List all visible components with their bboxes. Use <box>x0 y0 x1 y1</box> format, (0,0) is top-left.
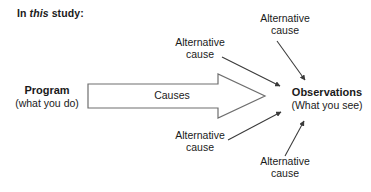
alt-cause-line2: cause <box>271 24 299 36</box>
alt-cause-line1: Alternative <box>260 12 310 24</box>
arrow-alt-cause-bottom-right <box>285 121 304 156</box>
alt-cause-line2: cause <box>186 48 214 60</box>
alt-cause-label-top-right: Alternative cause <box>248 12 322 37</box>
heading-prefix: In <box>17 7 30 19</box>
heading-label: In this study: <box>17 7 84 19</box>
alt-cause-label-bottom-right: Alternative cause <box>248 155 322 180</box>
causal-diagram: In this study: Program (what you do) Cau… <box>0 0 371 192</box>
alt-cause-line1: Alternative <box>260 155 310 167</box>
observations-node: Observations (What you see) <box>285 86 369 111</box>
alt-cause-label-bottom-left: Alternative cause <box>163 129 237 154</box>
alt-cause-line1: Alternative <box>175 36 225 48</box>
observations-title: Observations <box>285 86 369 99</box>
alt-cause-line2: cause <box>186 141 214 153</box>
causes-arrow-label: Causes <box>141 89 203 101</box>
observations-subtitle: (What you see) <box>285 99 369 111</box>
program-title: Program <box>4 84 90 97</box>
arrow-alt-cause-top-right <box>277 41 305 80</box>
heading-emphasis: this <box>30 7 49 19</box>
program-node: Program (what you do) <box>4 84 90 109</box>
alt-cause-label-top-left: Alternative cause <box>163 36 237 61</box>
heading-suffix: study: <box>49 7 84 19</box>
program-subtitle: (what you do) <box>4 97 90 109</box>
alt-cause-line1: Alternative <box>175 129 225 141</box>
alt-cause-line2: cause <box>271 167 299 179</box>
